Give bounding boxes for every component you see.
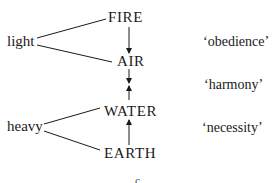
relation-obedience-label: ‘obedience’: [203, 35, 269, 49]
group-heavy-label: heavy: [7, 119, 43, 134]
heavy-to-water-line: [44, 108, 100, 124]
element-earth: EARTH: [104, 146, 156, 161]
element-air: AIR: [117, 54, 145, 69]
light-to-air-line: [37, 45, 112, 62]
heavy-to-earth-line: [44, 131, 100, 150]
group-light-label: light: [7, 34, 35, 49]
element-water: WATER: [104, 104, 157, 119]
relation-harmony-label: ‘harmony’: [204, 78, 263, 92]
light-to-fire-line: [37, 19, 106, 38]
cropped-glyph-fragment: c: [135, 175, 140, 183]
elements-diagram: FIRE AIR WATER EARTH light heavy ‘obedie…: [0, 0, 272, 183]
element-fire: FIRE: [108, 10, 143, 25]
relation-necessity-label: ‘necessity’: [202, 121, 263, 135]
